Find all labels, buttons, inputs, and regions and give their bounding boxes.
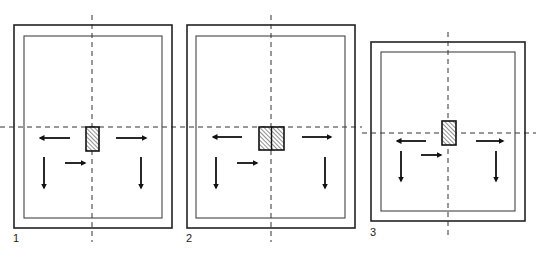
hatched-block [86,127,99,151]
panel-label: 1 [13,232,19,244]
panel-label: 3 [370,226,376,238]
hatched-block [442,121,456,145]
panel-2 [187,15,355,242]
panel-1 [14,15,172,242]
layout-diagram [0,0,544,258]
panel-label: 2 [186,232,192,244]
